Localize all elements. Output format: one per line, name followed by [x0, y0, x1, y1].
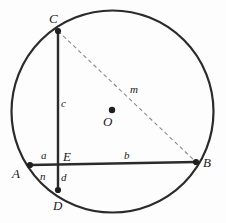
point-label-c: C [49, 12, 58, 25]
chord-cb-dashed [58, 31, 196, 162]
chord-ab [30, 162, 196, 165]
segment-label-m: m [130, 84, 138, 95]
segment-label-b: b [124, 150, 130, 161]
point-label-b: B [203, 156, 211, 169]
point-label-e: E [63, 150, 71, 163]
diagram-canvas [0, 0, 226, 223]
point-label-a: A [12, 167, 20, 180]
point-label-o: O [103, 115, 112, 128]
point-marker-a [27, 162, 33, 168]
point-marker-d [55, 187, 61, 193]
segment-label-n: n [40, 171, 46, 182]
point-marker-c [55, 28, 61, 34]
point-label-d: D [53, 199, 62, 212]
circle-geometry-diagram: C B A D E O c a b d n m [0, 0, 226, 223]
segment-label-a: a [41, 150, 47, 161]
center-dot-icon [109, 107, 115, 113]
point-marker-b [193, 159, 199, 165]
segment-label-c: c [61, 98, 66, 109]
segment-label-d: d [61, 172, 67, 183]
